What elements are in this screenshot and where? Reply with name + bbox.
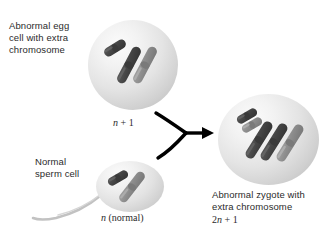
sperm-cell [96, 161, 164, 212]
egg-chromosome-1 [102, 38, 127, 59]
zygote-ploidy-rest: + 1 [222, 214, 238, 225]
sperm-ploidy-rest: (normal) [106, 212, 144, 223]
sperm-tail-icon [33, 196, 100, 220]
egg-chromosome-group [88, 20, 178, 110]
egg-cell-label: Abnormal egg cell with extra chromosome [9, 20, 93, 57]
sperm-chromosome-1 [106, 169, 129, 187]
sperm-tail-highlight [58, 194, 101, 215]
egg-chromosomes-svg [88, 20, 178, 110]
arrow-egg-to-zygote [156, 113, 186, 133]
sperm-cell-label: Normal sperm cell [35, 156, 105, 180]
egg-cell [88, 20, 178, 110]
egg-ploidy-label: n + 1 [113, 117, 134, 129]
zygote-cell [218, 94, 319, 185]
sperm-ploidy-label: n (normal) [101, 212, 144, 224]
arrow-sperm-to-zygote [158, 133, 186, 158]
egg-ploidy-rest: + 1 [118, 117, 134, 128]
arrowhead-right-icon [202, 127, 214, 139]
nondisjunction-diagram: Abnormal egg cell with extra chromosome … [0, 0, 333, 235]
zygote-chromosome-group [218, 94, 319, 185]
zygote-chromosomes-svg [218, 94, 319, 185]
zygote-ploidy-label: 2n + 1 [212, 214, 238, 226]
sperm-chromosomes-svg [96, 161, 164, 212]
sperm-chromosome-group [96, 161, 164, 212]
zygote-cell-label: Abnormal zygote with extra chromosome [212, 189, 332, 213]
